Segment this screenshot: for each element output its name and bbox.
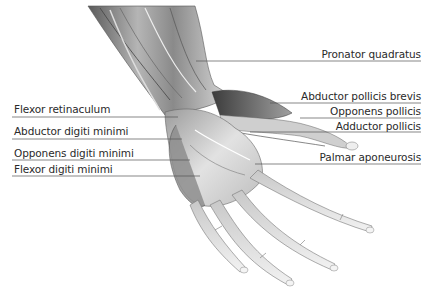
- label-adductor-pollicis: Adductor pollicis: [336, 120, 421, 132]
- label-opponens-pollicis: Opponens pollicis: [330, 105, 421, 117]
- label-abductor-pollicis-brevis: Abductor pollicis brevis: [301, 90, 421, 102]
- label-pronator-quadratus: Pronator quadratus: [321, 48, 421, 60]
- label-flexor-digiti-minimi: Flexor digiti minimi: [14, 163, 113, 175]
- label-flexor-retinaculum: Flexor retinaculum: [14, 103, 110, 115]
- label-opponens-digiti-minimi: Opponens digiti minimi: [14, 147, 134, 159]
- anatomy-diagram: Flexor retinaculum Abductor digiti minim…: [0, 0, 433, 295]
- forearm: [88, 6, 230, 115]
- label-palmar-aponeurosis: Palmar aponeurosis: [320, 151, 421, 163]
- label-abductor-digiti-minimi: Abductor digiti minimi: [14, 125, 128, 137]
